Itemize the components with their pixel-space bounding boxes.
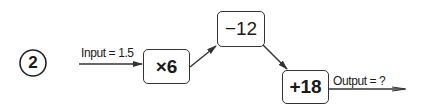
arrow-step1-to-step2	[190, 46, 216, 67]
step-box-add: +18	[282, 70, 329, 104]
output-label: Output = ?	[333, 74, 385, 88]
step-box-multiply: ×6	[143, 49, 190, 84]
step-box-subtract: −12	[217, 11, 265, 47]
function-machine-diagram: 2 Input = 1.5 ×6 −12 +18 Output = ?	[0, 0, 424, 109]
question-number: 2	[20, 50, 46, 76]
arrow-step2-to-step3	[263, 45, 287, 69]
input-label: Input = 1.5	[81, 46, 134, 60]
connector-arrows	[0, 0, 424, 109]
